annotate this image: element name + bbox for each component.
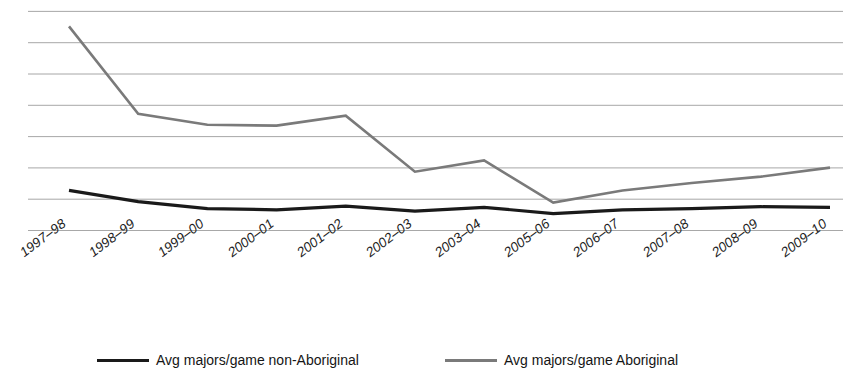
legend-entry[interactable]: Avg majors/game non-Aboriginal [97, 350, 359, 370]
series-line-1 [69, 190, 830, 213]
chart-legend: Avg majors/game non-AboriginalAvg majors… [0, 344, 845, 376]
legend-label: Avg majors/game Aboriginal [504, 352, 678, 368]
series-lines [69, 26, 830, 213]
chart-canvas [0, 0, 845, 376]
legend-label: Avg majors/game non-Aboriginal [156, 352, 359, 368]
legend-entry[interactable]: Avg majors/game Aboriginal [445, 350, 678, 370]
legend-line-swatch [97, 359, 149, 362]
line-chart: 1997–981998–991999–002000–012001–022002–… [0, 0, 845, 376]
gridlines [28, 11, 843, 230]
series-line-2 [69, 26, 830, 202]
legend-line-swatch [445, 359, 497, 362]
